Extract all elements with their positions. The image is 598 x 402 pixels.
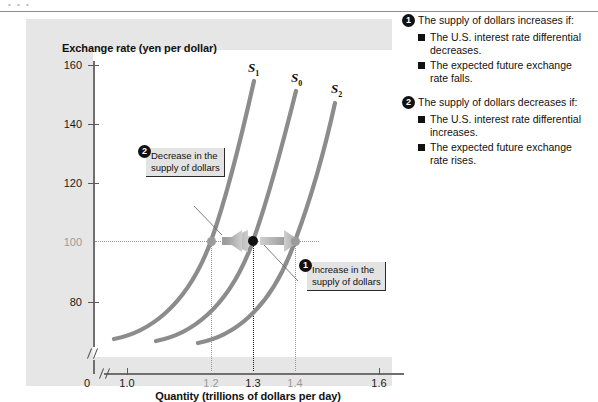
equilibrium-dot-s0 xyxy=(248,236,258,246)
callout-increase-supply: Increase in the supply of dollars xyxy=(307,262,386,291)
callout-2-badge: 2 xyxy=(138,145,151,158)
note-2-bullet-1-text: The U.S. interest rate differential incr… xyxy=(430,113,581,138)
callout-2-line2: supply of dollars xyxy=(151,162,220,174)
curve-s1 xyxy=(114,81,254,339)
arrow-decrease-supply xyxy=(222,230,250,252)
square-bullet-icon xyxy=(418,116,425,123)
note-2-bullets: The U.S. interest rate differential incr… xyxy=(418,113,592,166)
curve-label-s2: S2 xyxy=(331,81,342,99)
callout-1-badge: 1 xyxy=(299,259,312,272)
chart-panel: Exchange rate (yen per dollar) 160 140 1… xyxy=(26,19,392,386)
note-2-bullet-2: The expected future exchange rate rises. xyxy=(418,141,592,166)
note-1-badge: 1 xyxy=(402,14,415,27)
curve-label-s0: S0 xyxy=(291,70,302,88)
note-item-2: 2 The supply of dollars decreases if: Th… xyxy=(402,96,592,166)
note-1-bullet-2-text: The expected future exchange rate falls. xyxy=(430,59,572,84)
note-1-heading: The supply of dollars increases if: xyxy=(418,14,574,26)
x-axis-title: Quantity (trillions of dollars per day) xyxy=(155,390,341,402)
curve-label-s2-sub: 2 xyxy=(338,90,342,99)
note-2-heading: The supply of dollars decreases if: xyxy=(418,96,577,108)
callout-2-line1: Decrease in the xyxy=(151,150,220,162)
curve-label-s0-sub: 0 xyxy=(298,79,302,88)
note-1-bullet-1: The U.S. interest rate differential decr… xyxy=(418,31,592,56)
note-2-heading-row: 2 The supply of dollars decreases if: xyxy=(402,96,592,109)
note-2-bullet-1: The U.S. interest rate differential incr… xyxy=(418,113,592,138)
square-bullet-icon xyxy=(418,34,425,41)
notes-spacer xyxy=(402,87,592,96)
callout-1-line1: Increase in the xyxy=(312,264,381,276)
note-1-bullet-1-text: The U.S. interest rate differential decr… xyxy=(430,31,581,56)
note-1-bullet-2: The expected future exchange rate falls. xyxy=(418,59,592,84)
note-1-heading-row: 1 The supply of dollars increases if: xyxy=(402,14,592,27)
note-1-bullets: The U.S. interest rate differential decr… xyxy=(418,31,592,84)
square-bullet-icon xyxy=(418,62,425,69)
callout-decrease-supply: Decrease in the supply of dollars xyxy=(146,148,225,177)
curve-label-s1-sub: 1 xyxy=(255,69,259,78)
note-2-bullet-2-text: The expected future exchange rate rises. xyxy=(430,141,572,166)
note-2-badge: 2 xyxy=(402,96,415,109)
curve-label-s1: S1 xyxy=(248,60,259,78)
page-fragment-text: • • • xyxy=(8,0,54,9)
equilibrium-dot-s1 xyxy=(207,237,216,246)
supply-curves-svg xyxy=(26,19,392,386)
top-divider xyxy=(0,11,598,12)
equilibrium-dot-s2 xyxy=(291,237,300,246)
square-bullet-icon xyxy=(418,144,425,151)
callout-1-line2: supply of dollars xyxy=(312,276,381,288)
note-item-1: 1 The supply of dollars increases if: Th… xyxy=(402,14,592,84)
notes-panel: 1 The supply of dollars increases if: Th… xyxy=(402,14,592,189)
